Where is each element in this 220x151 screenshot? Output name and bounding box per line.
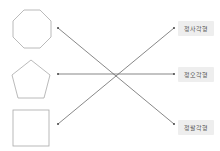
right-dot-octagon-label[interactable] [173,123,175,125]
left-dot-octagon[interactable] [57,27,59,29]
pentagon-shape [12,60,50,98]
label-pentagon[interactable]: 정오각형 [178,67,214,82]
label-octagon[interactable]: 정팔각형 [178,120,214,135]
octagon-shape [13,10,51,48]
square-shape [13,110,49,146]
right-dot-square-label[interactable] [173,27,175,29]
left-dot-square[interactable] [57,123,59,125]
left-dot-pentagon[interactable] [57,73,59,75]
label-square[interactable]: 정사각형 [178,21,214,36]
right-dot-pentagon-label[interactable] [173,73,175,75]
